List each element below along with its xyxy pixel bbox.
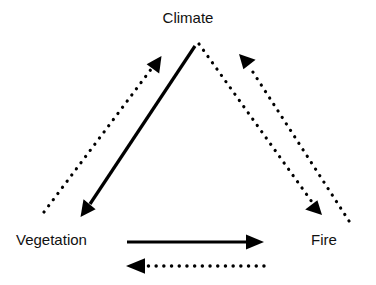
- edge-climate-to-fire-arrowhead: [305, 200, 322, 215]
- edge-climate-to-fire-line: [199, 44, 312, 202]
- node-label-vegetation: Vegetation: [16, 232, 87, 247]
- edge-fire-to-vegetation: [126, 258, 264, 274]
- edge-fire-to-vegetation-arrowhead: [126, 258, 145, 274]
- edge-climate-to-fire: [199, 44, 322, 215]
- edge-fire-to-climate: [239, 54, 349, 221]
- node-label-climate: Climate: [0, 10, 376, 25]
- node-label-fire: Fire: [311, 232, 337, 247]
- edge-vegetation-to-fire: [127, 235, 264, 250]
- edge-vegetation-to-climate: [44, 56, 162, 212]
- edge-vegetation-to-fire-arrowhead: [246, 235, 264, 250]
- feedback-diagram: Climate Vegetation Fire: [0, 0, 376, 285]
- edge-climate-to-vegetation-line: [90, 46, 195, 204]
- edge-climate-to-vegetation: [81, 46, 196, 217]
- edge-fire-to-climate-line: [249, 66, 349, 221]
- edge-fire-to-climate-arrowhead: [239, 54, 256, 69]
